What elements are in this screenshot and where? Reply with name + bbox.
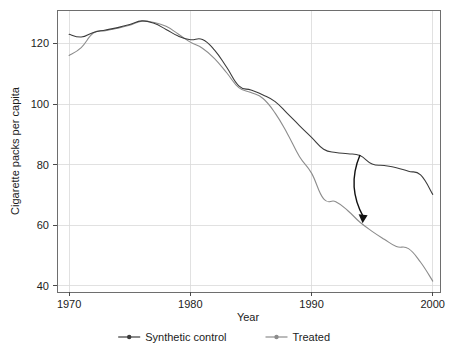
x-axis: 1970198019902000 — [57, 292, 445, 310]
plot-area-background — [57, 10, 440, 292]
x-tick-label: 1970 — [57, 298, 81, 310]
y-tick-label: 80 — [37, 159, 49, 171]
y-tick-label: 40 — [37, 280, 49, 292]
y-tick-label: 100 — [31, 98, 49, 110]
legend-label: Synthetic control — [145, 331, 226, 343]
x-tick-label: 1990 — [299, 298, 323, 310]
legend-item[interactable]: Synthetic control — [118, 331, 226, 343]
chart-legend: Synthetic controlTreated — [118, 331, 330, 343]
synthetic-control-line-chart: 406080100120 1970198019902000 Year Cigar… — [0, 0, 452, 355]
y-axis-title: Cigarette packs per capita — [9, 86, 21, 215]
legend-item[interactable]: Treated — [266, 331, 331, 343]
legend-label: Treated — [293, 331, 331, 343]
y-tick-label: 60 — [37, 219, 49, 231]
x-axis-title: Year — [237, 311, 260, 323]
legend-marker-dot — [274, 335, 278, 339]
chart-container: 406080100120 1970198019902000 Year Cigar… — [0, 0, 452, 355]
x-tick-label: 1980 — [178, 298, 202, 310]
y-axis: 406080100120 — [31, 37, 57, 292]
y-tick-label: 120 — [31, 37, 49, 49]
legend-marker-dot — [127, 335, 131, 339]
x-tick-label: 2000 — [420, 298, 444, 310]
